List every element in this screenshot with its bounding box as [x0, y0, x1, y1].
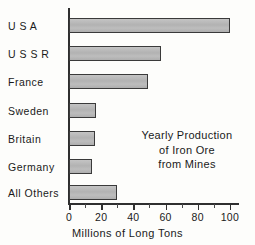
bar	[69, 46, 161, 61]
bars-layer: U S AU S S RFranceSwedenBritainGermanyAl…	[0, 0, 255, 245]
x-tick-label: 20	[95, 211, 107, 223]
bar-category-label: U S S R	[8, 48, 66, 60]
bar	[69, 74, 148, 89]
bar	[69, 103, 96, 118]
x-tick-minor	[214, 204, 215, 208]
bar-category-label: Sweden	[8, 105, 66, 117]
annotation-line-3: from Mines	[124, 157, 250, 172]
bar-row: Sweden	[0, 103, 255, 119]
bar-row: France	[0, 74, 255, 90]
x-tick-label: 100	[221, 211, 239, 223]
x-tick-major	[133, 204, 135, 210]
bar	[69, 131, 95, 146]
x-tick-major	[166, 204, 168, 210]
bar	[69, 18, 230, 33]
x-axis-title: Millions of Long Tons	[0, 227, 255, 239]
x-tick-major	[230, 204, 232, 210]
bar	[69, 185, 117, 200]
x-tick-label: 0	[66, 211, 72, 223]
x-tick-label: 60	[159, 211, 171, 223]
x-tick-minor	[117, 204, 118, 208]
x-tick-minor	[182, 204, 183, 208]
bar-category-label: Britain	[8, 133, 66, 145]
bar-row: U S S R	[0, 46, 255, 62]
x-tick-label: 40	[127, 211, 139, 223]
x-tick-minor	[85, 204, 86, 208]
bar-category-label: Germany	[8, 161, 66, 173]
bar	[69, 159, 92, 174]
bar-category-label: All Others	[8, 187, 66, 199]
annotation-line-1: Yearly Production	[124, 128, 250, 143]
bar-row: All Others	[0, 185, 255, 201]
bar-row: U S A	[0, 18, 255, 34]
chart-annotation: Yearly Production of Iron Ore from Mines	[124, 128, 250, 172]
bar-chart: U S AU S S RFranceSwedenBritainGermanyAl…	[0, 0, 255, 245]
x-tick-label: 80	[192, 211, 204, 223]
bar-category-label: France	[8, 76, 66, 88]
x-tick-major	[101, 204, 103, 210]
x-tick-major	[69, 204, 71, 210]
annotation-line-2: of Iron Ore	[124, 143, 250, 158]
x-tick-major	[198, 204, 200, 210]
x-tick-minor	[149, 204, 150, 208]
bar-category-label: U S A	[8, 20, 66, 32]
